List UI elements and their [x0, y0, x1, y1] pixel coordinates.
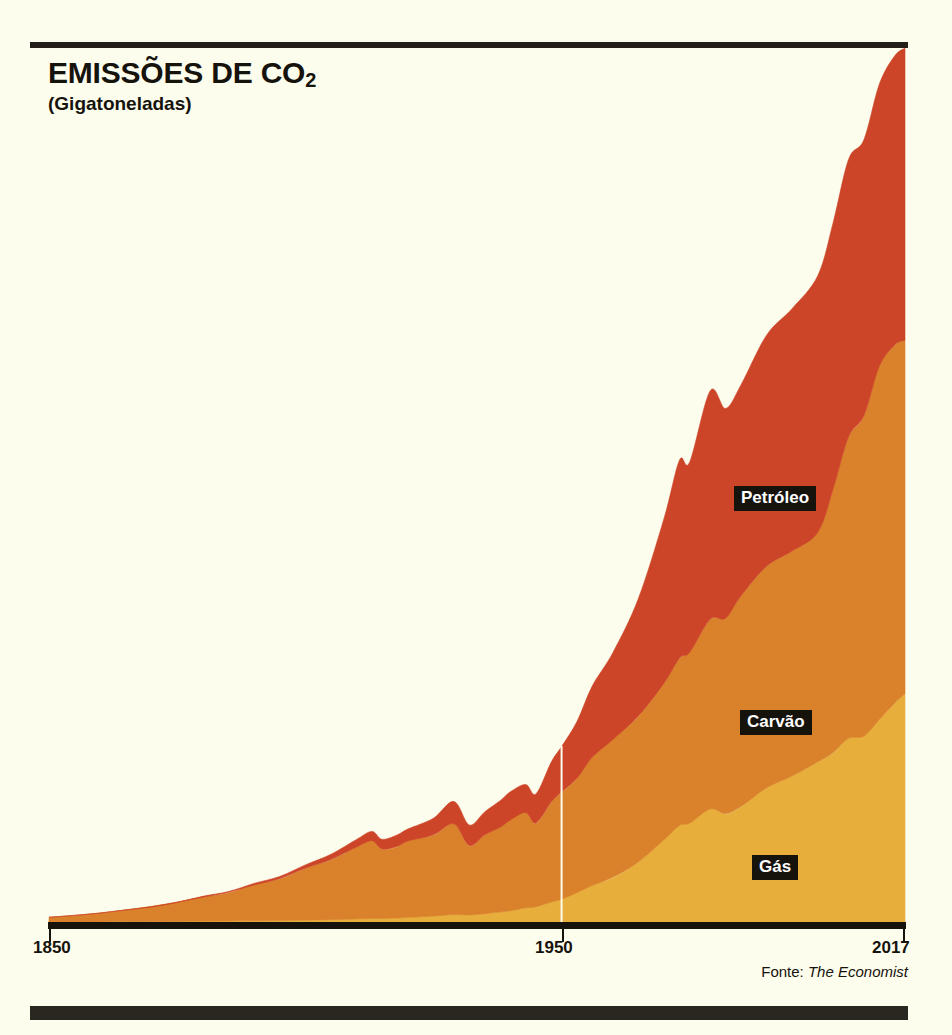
source-credit: Fonte: The Economist	[761, 963, 908, 980]
source-name: The Economist	[808, 963, 908, 980]
x-axis-tick-2017: 2017	[872, 938, 910, 958]
top-rule	[30, 42, 908, 48]
page-title-text: EMISSÕES DE CO	[48, 56, 305, 89]
page-title-subscript: 2	[305, 69, 316, 91]
infographic-page: EMISSÕES DE CO2 (Gigatoneladas) 1850 195…	[0, 0, 952, 1035]
chart-header: EMISSÕES DE CO2 (Gigatoneladas)	[48, 56, 748, 115]
bottom-rule	[30, 1006, 908, 1020]
area-band-petrleo	[49, 48, 905, 917]
page-subtitle: (Gigatoneladas)	[48, 93, 748, 116]
series-label-carvao: Carvão	[740, 710, 812, 735]
area-band-carvo	[49, 340, 905, 922]
stacked-area-chart	[0, 0, 952, 1035]
source-prefix: Fonte:	[761, 963, 804, 980]
chart-canvas	[0, 0, 952, 1035]
series-label-petroleo: Petróleo	[734, 486, 816, 511]
page-title: EMISSÕES DE CO2	[48, 56, 748, 90]
series-label-gas: Gás	[752, 855, 798, 880]
x-axis-tick-1950: 1950	[535, 938, 573, 958]
x-axis-tick-1850: 1850	[33, 938, 71, 958]
x-axis-line	[48, 922, 906, 929]
